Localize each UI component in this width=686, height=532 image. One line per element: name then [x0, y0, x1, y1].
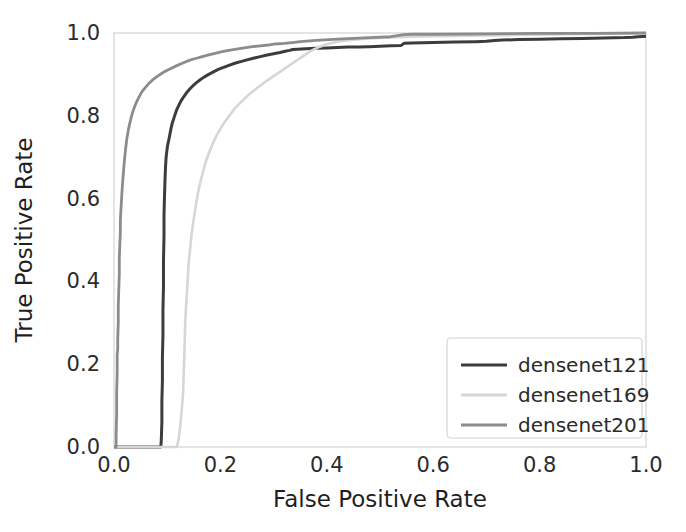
roc-plot-svg: 0.00.20.40.60.81.0 0.00.20.40.60.81.0 Fa…	[0, 0, 686, 532]
x-tick-label: 0.6	[416, 453, 449, 477]
y-tick-label: 0.0	[67, 435, 100, 459]
legend-label-densenet169: densenet169	[518, 383, 649, 407]
x-tick-label: 0.2	[204, 453, 237, 477]
legend-items-group: densenet121densenet169densenet201	[461, 353, 649, 437]
figure-canvas: 0.00.20.40.60.81.0 0.00.20.40.60.81.0 Fa…	[0, 0, 686, 532]
y-tick-label: 1.0	[67, 21, 100, 45]
y-tick-label: 0.6	[67, 187, 100, 211]
y-tick-label: 0.8	[67, 104, 100, 128]
x-tick-label: 1.0	[629, 453, 662, 477]
x-axis-title: False Positive Rate	[273, 486, 487, 512]
y-tick-label: 0.4	[67, 269, 100, 293]
legend: densenet121densenet169densenet201	[447, 338, 649, 438]
y-tick-label: 0.2	[67, 352, 100, 376]
x-tick-label: 0.0	[97, 453, 130, 477]
y-axis-title: True Positive Rate	[11, 138, 37, 344]
legend-label-densenet121: densenet121	[518, 353, 649, 377]
roc-curve-figure: 0.00.20.40.60.81.0 0.00.20.40.60.81.0 Fa…	[0, 0, 686, 532]
legend-label-densenet201: densenet201	[518, 413, 649, 437]
x-tick-label: 0.4	[310, 453, 343, 477]
x-tick-label: 0.8	[523, 453, 556, 477]
